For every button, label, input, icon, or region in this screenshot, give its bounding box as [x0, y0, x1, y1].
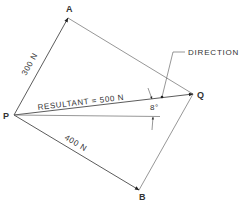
force-diagram: A P Q B 300 N 400 N RESULTANT = 500 N 8°…: [0, 0, 243, 203]
resultant-label: RESULTANT = 500 N: [37, 93, 124, 112]
side-b-q: [139, 94, 193, 190]
direction-leader: [162, 52, 185, 97]
angle-arrow-top: [148, 88, 152, 99]
vector-pb-label: 400 N: [63, 133, 89, 153]
direction-label: DIRECTION: [188, 48, 239, 57]
point-label-a: A: [66, 4, 73, 14]
angle-label: 8°: [150, 103, 159, 112]
reference-line: [14, 115, 160, 117]
vector-pa-label: 300 N: [20, 51, 40, 77]
direction-leader-dot: [161, 96, 164, 99]
point-label-b: B: [139, 192, 146, 202]
point-label-p: P: [3, 111, 9, 121]
point-label-q: Q: [197, 90, 204, 100]
vector-pb-arrow: [14, 115, 139, 190]
side-a-q: [68, 18, 193, 94]
angle-arrow-bottom: [152, 117, 153, 130]
